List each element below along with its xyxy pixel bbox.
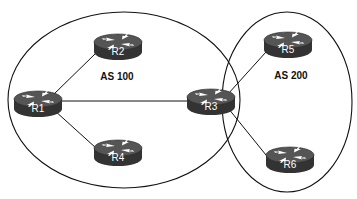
router-label: R4 xyxy=(112,152,125,163)
router-label: R1 xyxy=(32,103,45,114)
router-r4[interactable]: R4 xyxy=(94,140,142,166)
router-label: R5 xyxy=(282,44,295,55)
router-r2[interactable]: R2 xyxy=(94,34,142,60)
router-r1[interactable]: R1 xyxy=(14,91,62,117)
router-r3[interactable]: R3 xyxy=(187,89,235,115)
link-r1-r2 xyxy=(52,54,95,96)
link-r1-r4 xyxy=(54,110,96,148)
router-r6[interactable]: R6 xyxy=(266,147,314,173)
link-r3-r5 xyxy=(228,52,266,94)
router-label: R3 xyxy=(205,101,218,112)
as100-label: AS 100 xyxy=(100,71,134,82)
router-r5[interactable]: R5 xyxy=(264,32,312,58)
link-r3-r6 xyxy=(228,108,266,155)
router-label: R6 xyxy=(284,159,297,170)
as200-label: AS 200 xyxy=(274,70,308,81)
network-diagram: R1 R2 R3 R4 R5 R6 AS 100 AS 200 xyxy=(0,0,357,199)
router-label: R2 xyxy=(112,46,125,57)
